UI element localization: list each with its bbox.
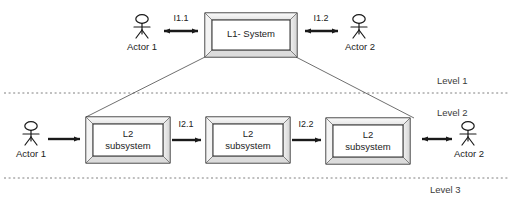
l2-subsystem-3-label-line1: L2	[363, 130, 374, 140]
l2-left-actor-label: Actor 1	[16, 149, 46, 159]
l2-subsystem-3-label-line2: subsystem	[345, 142, 390, 152]
diagram-canvas: L1- System Actor 1 Actor 2 I1.1 I1.2 L2 …	[0, 0, 512, 206]
l1-right-interface-label: I1.2	[313, 14, 328, 23]
l2-subsystem-1-label-line1: L2	[123, 129, 134, 139]
l2-interface-1-label: I2.1	[178, 120, 193, 129]
l1-left-actor-label: Actor 1	[127, 42, 157, 52]
l2-left-actor-icon	[23, 122, 39, 145]
level-3-label: Level 3	[430, 185, 461, 195]
level-1-label: Level 1	[437, 76, 468, 86]
decomposition-line-right	[296, 57, 414, 118]
l2-interface-2-label: I2.2	[298, 120, 313, 129]
l2-right-actor-icon	[460, 122, 476, 145]
l2-right-actor-label: Actor 2	[454, 149, 484, 159]
l2-subsystem-2-label-line2: subsystem	[225, 141, 270, 151]
l2-subsystem-1-label-line2: subsystem	[105, 141, 150, 151]
decomposition-line-left	[86, 57, 205, 117]
l1-left-interface-label: I1.1	[173, 14, 188, 23]
l1-left-actor-icon	[134, 15, 150, 38]
l1-right-actor-label: Actor 2	[345, 42, 375, 52]
l2-subsystem-2-label-line1: L2	[243, 129, 254, 139]
level-2-label: Level 2	[437, 108, 468, 118]
l1-system-box-label: L1- System	[227, 29, 275, 39]
l1-right-actor-icon	[351, 15, 367, 38]
